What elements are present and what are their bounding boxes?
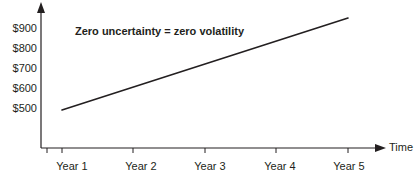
x-tick-label-year-3: Year 3 xyxy=(194,160,225,172)
y-tick-label-500: $500 xyxy=(13,102,37,114)
y-tick-label-800: $800 xyxy=(13,42,37,54)
x-tick-label-year-4: Year 4 xyxy=(264,160,295,172)
y-tick-label-700: $700 xyxy=(13,62,37,74)
annotation-zero-uncertainty: Zero uncertainty = zero volatility xyxy=(75,25,245,37)
chart-canvas: $900 $800 $700 $600 $500 Year 1 Year 2 Y… xyxy=(0,0,420,181)
x-axis-title: Time xyxy=(389,141,413,153)
x-tick-label-year-5: Year 5 xyxy=(333,160,364,172)
chart-container: $900 $800 $700 $600 $500 Year 1 Year 2 Y… xyxy=(0,0,420,181)
y-tick-label-900: $900 xyxy=(13,22,37,34)
x-tick-label-year-2: Year 2 xyxy=(125,160,156,172)
x-tick-label-year-1: Year 1 xyxy=(56,160,87,172)
y-tick-label-600: $600 xyxy=(13,82,37,94)
